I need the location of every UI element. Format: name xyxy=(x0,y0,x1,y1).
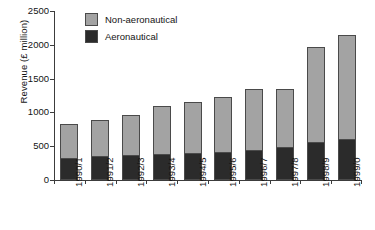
x-axis-label: 1992/3 xyxy=(135,157,146,187)
legend-label-non-aeronautical: Non-aeronautical xyxy=(105,13,177,26)
bar-segment-non-aeronautical xyxy=(184,102,202,153)
bar-segment-non-aeronautical xyxy=(214,97,232,152)
bar-segment-non-aeronautical xyxy=(153,106,171,153)
chart-legend: Non-aeronautical Aeronautical xyxy=(85,12,177,46)
bar-segment-non-aeronautical xyxy=(307,47,325,142)
bar-segment-non-aeronautical xyxy=(91,120,109,156)
x-axis-label: 1991/2 xyxy=(104,157,115,187)
y-tick-label: 2500 xyxy=(9,5,49,16)
legend-label-aeronautical: Aeronautical xyxy=(105,30,158,43)
bar-segment-non-aeronautical xyxy=(60,124,78,158)
x-axis-label: 1995/6 xyxy=(227,157,238,187)
x-axis-label: 1990/1 xyxy=(73,157,84,187)
y-tick-label: 500 xyxy=(9,140,49,151)
x-tick xyxy=(177,180,178,184)
y-tick-label: 1000 xyxy=(9,106,49,117)
x-axis-label: 1999/0 xyxy=(351,157,362,187)
x-tick xyxy=(54,180,55,184)
x-tick xyxy=(85,180,86,184)
x-axis-label: 1994/5 xyxy=(197,157,208,187)
x-axis-label: 1993/4 xyxy=(166,157,177,187)
x-tick xyxy=(208,180,209,184)
y-tick xyxy=(50,112,54,113)
x-tick xyxy=(116,180,117,184)
x-axis-label: 1998/9 xyxy=(320,157,331,187)
x-tick xyxy=(239,180,240,184)
x-tick xyxy=(331,180,332,184)
x-tick xyxy=(146,180,147,184)
bar-segment-non-aeronautical xyxy=(276,89,294,147)
bar-segment-non-aeronautical xyxy=(338,35,356,139)
y-axis-line xyxy=(54,11,55,180)
y-tick-label: 0 xyxy=(9,174,49,185)
y-tick xyxy=(50,11,54,12)
x-axis-label: 1996/7 xyxy=(258,157,269,187)
legend-item-aeronautical: Aeronautical xyxy=(85,29,177,43)
y-tick xyxy=(50,146,54,147)
legend-swatch-non-aeronautical xyxy=(85,13,98,26)
legend-swatch-aeronautical xyxy=(85,30,98,43)
stacked-bar-chart: Revenue (£ million) 05001000150020002500… xyxy=(0,0,375,230)
x-axis-label: 1997/8 xyxy=(289,157,300,187)
bar-segment-non-aeronautical xyxy=(245,89,263,150)
legend-item-non-aeronautical: Non-aeronautical xyxy=(85,12,177,26)
y-tick-label: 1500 xyxy=(9,73,49,84)
y-tick-label: 2000 xyxy=(9,39,49,50)
y-tick xyxy=(50,79,54,80)
x-tick xyxy=(300,180,301,184)
y-tick xyxy=(50,45,54,46)
bar-segment-non-aeronautical xyxy=(122,115,140,155)
x-tick xyxy=(270,180,271,184)
